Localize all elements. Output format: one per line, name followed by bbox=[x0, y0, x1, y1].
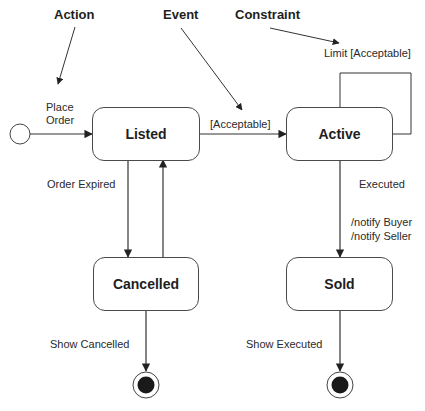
label-notify-seller: /notify Seller bbox=[351, 230, 412, 243]
annotation-action: Action bbox=[54, 7, 94, 22]
event-pointer-arrow bbox=[181, 28, 242, 110]
state-sold: Sold bbox=[286, 257, 393, 311]
label-notify-buyer: /notify Buyer bbox=[351, 216, 412, 229]
constraint-pointer-arrow bbox=[270, 28, 339, 43]
label-acceptable: [Acceptable] bbox=[210, 118, 271, 131]
final-state-sold-dot bbox=[332, 377, 349, 394]
initial-state bbox=[10, 124, 30, 144]
state-sold-label: Sold bbox=[324, 276, 354, 292]
label-place-order-line1: Place bbox=[46, 101, 74, 114]
action-pointer-arrow bbox=[58, 27, 75, 84]
label-show-executed: Show Executed bbox=[246, 338, 322, 351]
state-listed: Listed bbox=[92, 107, 200, 161]
state-active-label: Active bbox=[318, 126, 360, 142]
label-show-cancelled: Show Cancelled bbox=[50, 338, 130, 351]
label-place-order-line2: Order bbox=[46, 114, 74, 127]
state-listed-label: Listed bbox=[125, 126, 166, 142]
annotation-constraint: Constraint bbox=[235, 7, 300, 22]
label-order-expired: Order Expired bbox=[47, 178, 115, 191]
state-cancelled-label: Cancelled bbox=[113, 276, 179, 292]
state-active: Active bbox=[286, 107, 393, 161]
label-limit-acceptable: Limit [Acceptable] bbox=[324, 47, 411, 60]
annotation-event: Event bbox=[163, 7, 198, 22]
label-executed: Executed bbox=[359, 178, 405, 191]
state-cancelled: Cancelled bbox=[93, 257, 199, 311]
final-state-cancelled-dot bbox=[138, 377, 155, 394]
